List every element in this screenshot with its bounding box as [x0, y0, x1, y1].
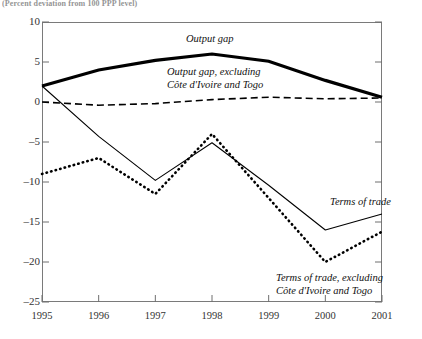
y-axis-tick-label: 5: [6, 56, 40, 67]
x-axis-tick-label: 1996: [71, 310, 127, 321]
y-axis: 1050–5–10–15–20–25: [0, 0, 40, 339]
x-axis-tick-label: 2000: [297, 310, 353, 321]
x-axis-tick-label: 1997: [127, 310, 183, 321]
annotation-output-gap-excluding: Output gap, excluding Côte d'Ivoire and …: [167, 66, 263, 91]
plot-area: [42, 22, 382, 302]
x-axis-tick-label: 2001: [354, 310, 410, 321]
y-axis-tick-label: –15: [6, 216, 40, 227]
y-axis-tick-label: 0: [6, 96, 40, 107]
y-axis-tick-label: 10: [6, 16, 40, 27]
x-axis-tick-label: 1999: [241, 310, 297, 321]
x-axis-tick-label: 1998: [184, 310, 240, 321]
y-axis-tick-label: –10: [6, 176, 40, 187]
y-axis-tick-label: –5: [6, 136, 40, 147]
y-axis-tick-label: –25: [6, 296, 40, 307]
chart-figure: (Percent deviation from 100 PPP level) 1…: [0, 0, 422, 339]
y-axis-tick-label: –20: [6, 256, 40, 267]
annotation-output-gap: Output gap: [186, 33, 234, 46]
annotation-terms-of-trade-excluding: Terms of trade, excluding Côte d'Ivoire …: [276, 272, 383, 297]
annotation-terms-of-trade: Terms of trade: [330, 196, 391, 209]
x-axis-tick-label: 1995: [14, 310, 70, 321]
